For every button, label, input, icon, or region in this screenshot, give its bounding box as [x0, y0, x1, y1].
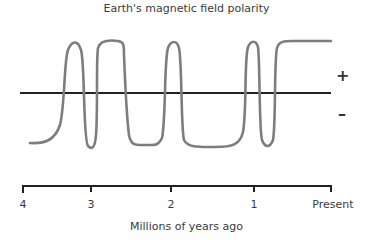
tick-label-2: 2	[168, 198, 175, 211]
tick-label-3: 3	[88, 198, 95, 211]
tick-label-present: Present	[312, 198, 353, 211]
x-axis-label: Millions of years ago	[0, 220, 373, 233]
polarity-curve	[30, 41, 331, 148]
negative-polarity-label: –	[338, 104, 346, 123]
tick-label-4: 4	[20, 198, 27, 211]
tick-label-1: 1	[251, 198, 258, 211]
positive-polarity-label: +	[336, 66, 349, 85]
